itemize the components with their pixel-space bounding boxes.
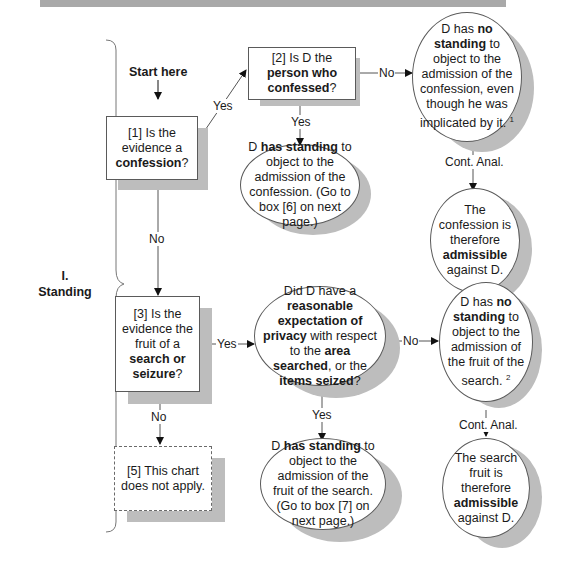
standing-confession-ellipse: D has standing to object to the admissio… (240, 144, 360, 226)
edge-no-privacy: No (402, 334, 419, 348)
edge-no-3-5: No (150, 410, 167, 424)
start-label: Start here (129, 65, 187, 79)
cont-anal-label-2: Cont. Anal. (458, 418, 519, 432)
edge-no-2: No (378, 66, 395, 80)
no-standing-search-circle: D has no standing to object to the admis… (439, 282, 533, 402)
box-2-person-who-confessed: [2] Is D the person who confessed? (248, 47, 356, 100)
box-1-confession-question: [1] Is the evidence a confession? (106, 116, 198, 180)
cont-anal-label-1: Cont. Anal. (444, 155, 505, 169)
privacy-expectation-ellipse: Did D have a reasonable expectation of p… (254, 286, 386, 386)
section-title: Standing (30, 284, 100, 300)
edge-yes-3: Yes (216, 337, 238, 351)
box-3-search-or-seizure: [3] Is the evidence the fruit of a searc… (115, 296, 200, 392)
edge-yes-privacy: Yes (311, 408, 333, 422)
standing-search-ellipse: D has standing to object to the admissio… (260, 438, 386, 530)
edge-yes-2: Yes (290, 115, 312, 129)
confession-admissible-circle: The confession is therefore admissible a… (430, 188, 520, 293)
edge-no-1-3: No (148, 232, 165, 246)
edge-yes-1-2: Yes (212, 99, 234, 113)
section-label: I. Standing (30, 268, 100, 300)
box-5-chart-not-applicable: [5] This chart does not apply. (114, 446, 212, 511)
search-admissible-circle: The search fruit is therefore admissible… (442, 438, 530, 538)
no-standing-confession-circle: D has no standing to object to the admis… (412, 12, 522, 142)
section-number: I. (30, 268, 100, 284)
